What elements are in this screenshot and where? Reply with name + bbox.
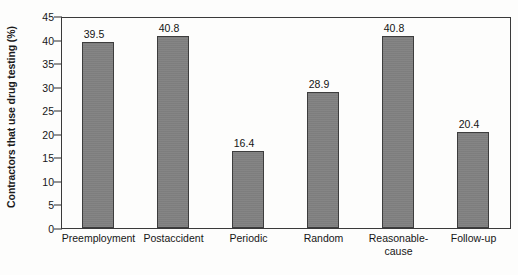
bar-value-label: 20.4 [439, 118, 499, 130]
bar [157, 36, 189, 228]
bar-series: 39.540.816.428.940.820.4 [62, 18, 510, 228]
bar [232, 151, 264, 228]
y-axis-tick-label: 25 [14, 105, 54, 117]
bar-value-label: 40.8 [364, 22, 424, 34]
bar [382, 36, 414, 228]
y-axis-tick-label: 0 [14, 223, 54, 235]
y-axis-tick-label: 15 [14, 152, 54, 164]
x-axis-tick-label: Follow-up [426, 232, 518, 245]
x-axis-ticks: PreemploymentPostaccidentPeriodicRandomR… [61, 232, 511, 274]
bar-chart-figure: Contractors that use drug testing (%) 05… [0, 0, 518, 275]
bar-value-label: 40.8 [139, 22, 199, 34]
y-axis-tick-label: 10 [14, 176, 54, 188]
bar-value-label: 28.9 [289, 78, 349, 90]
bar-value-label: 16.4 [214, 137, 274, 149]
x-axis-tick-label-line: cause [351, 245, 447, 258]
y-axis-tick-label: 40 [14, 35, 54, 47]
bar [82, 42, 114, 228]
x-axis-tick-label-line: Follow-up [426, 232, 518, 245]
y-axis-tick-label: 20 [14, 129, 54, 141]
bar-value-label: 39.5 [64, 28, 124, 40]
y-axis-tick-label: 5 [14, 199, 54, 211]
y-axis-tick-label: 30 [14, 82, 54, 94]
y-axis-tick-label: 35 [14, 58, 54, 70]
bar [307, 92, 339, 228]
bar [457, 132, 489, 228]
plot-area: 39.540.816.428.940.820.4 [61, 17, 511, 229]
y-axis-tick-label: 45 [14, 11, 54, 23]
